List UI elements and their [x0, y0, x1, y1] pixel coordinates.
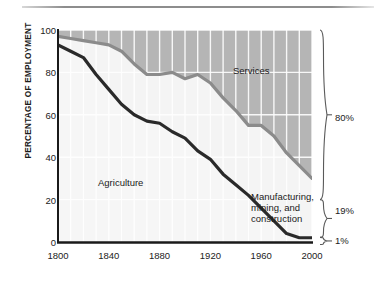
y-tick-60: 60	[30, 109, 56, 120]
y-tick-100: 100	[30, 25, 56, 36]
right-brace-group	[320, 30, 332, 245]
y-tick-0: 0	[30, 237, 56, 248]
employment-share-chart: PERCENTAGE OF EMPLOYMENT 020406080100 18…	[0, 0, 383, 284]
brace-manufacturing	[320, 200, 327, 238]
brace-label-agriculture: 1%	[335, 235, 349, 246]
manufacturing-label-line2: mining, and	[251, 203, 300, 214]
x-tick-1840: 1840	[89, 250, 129, 261]
y-tick-40: 40	[30, 152, 56, 163]
y-tick-20: 20	[30, 194, 56, 205]
manufacturing-label-line3: construction	[251, 214, 302, 225]
brace-agriculture	[320, 237, 327, 244]
plot-canvas	[0, 0, 383, 284]
y-tick-80: 80	[30, 67, 56, 78]
manufacturing-label-line1: Manufacturing,	[251, 192, 314, 203]
brace-services	[320, 30, 327, 200]
brace-label-manufacturing: 19%	[335, 205, 354, 216]
x-tick-1800: 1800	[38, 250, 78, 261]
x-tick-1880: 1880	[140, 250, 180, 261]
x-tick-1920: 1920	[190, 250, 230, 261]
y-axis-tick-labels: 020406080100	[28, 0, 56, 284]
brace-label-services: 80%	[335, 112, 354, 123]
agriculture-label: Agriculture	[98, 178, 143, 189]
x-tick-2000: 2000	[292, 250, 332, 261]
services-label: Services	[233, 66, 269, 77]
x-tick-1960: 1960	[241, 250, 281, 261]
